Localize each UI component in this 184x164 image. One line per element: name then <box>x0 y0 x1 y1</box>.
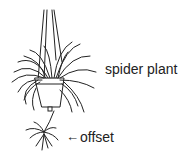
spider-plant-label: spider plant <box>105 62 177 76</box>
offset-label: ← offset <box>66 130 114 144</box>
offset-plantlet <box>26 122 58 150</box>
left-arrow-icon: ← <box>66 130 79 144</box>
offset-label-text: offset <box>80 130 114 144</box>
pot <box>35 78 64 111</box>
